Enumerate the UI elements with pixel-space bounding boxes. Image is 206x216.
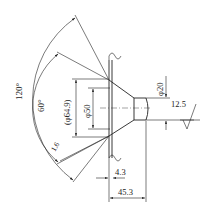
angle-arc-120 — [33, 18, 75, 180]
technical-drawing: 120° 60° 1.6 (φ64.9) φ50 φ20 12.5 4.3 — [0, 0, 206, 216]
part-outline — [109, 53, 148, 161]
dia-20-label: φ20 — [155, 83, 165, 96]
angle-lines — [57, 15, 109, 182]
chamfer-label: 1.6 — [49, 140, 62, 153]
break-line-top — [109, 53, 121, 60]
dia-64-9-label: (φ64.9) — [62, 99, 72, 125]
dia-50-label: φ50 — [82, 105, 92, 118]
len-45-3-label: 45.3 — [118, 187, 133, 197]
roughness-label: 12.5 — [171, 99, 186, 109]
drawing-svg: 120° 60° 1.6 (φ64.9) φ50 φ20 12.5 4.3 — [0, 0, 206, 216]
break-line-bottom — [109, 155, 121, 161]
angle-60-label: 60° — [36, 99, 46, 112]
roughness-symbol: 12.5 — [171, 99, 196, 129]
len-4-3-label: 4.3 — [115, 167, 126, 177]
angle-120-label: 120° — [14, 83, 24, 101]
